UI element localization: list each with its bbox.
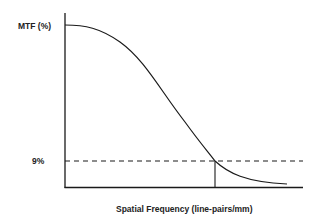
x-axis-label: Spatial Frequency (line-pairs/mm) [116, 204, 253, 214]
mtf-curve [65, 25, 287, 184]
mtf-chart [0, 0, 318, 219]
threshold-label: 9% [32, 156, 44, 166]
y-axis-label: MTF (%) [18, 21, 51, 31]
